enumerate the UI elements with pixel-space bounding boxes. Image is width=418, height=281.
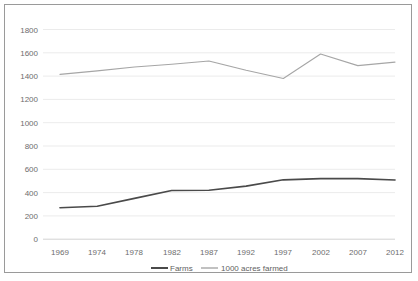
x-tick-1978: 1978 bbox=[125, 248, 143, 257]
chart-legend: Farms 1000 acres farmed bbox=[151, 264, 288, 273]
legend-label-acres: 1000 acres farmed bbox=[221, 264, 288, 273]
y-tick-1600: 1600 bbox=[20, 49, 38, 58]
x-tick-2002: 2002 bbox=[312, 248, 330, 257]
x-tick-1982: 1982 bbox=[163, 248, 181, 257]
x-tick-1969: 1969 bbox=[51, 248, 69, 257]
y-tick-1800: 1800 bbox=[20, 26, 38, 35]
y-tick-1000: 1000 bbox=[20, 119, 38, 128]
x-tick-1987: 1987 bbox=[200, 248, 218, 257]
legend-label-farms: Farms bbox=[170, 264, 193, 273]
x-axis-labels: 1969 1974 1978 1982 1987 1992 1997 2002 … bbox=[51, 248, 404, 257]
y-tick-1400: 1400 bbox=[20, 72, 38, 81]
y-tick-800: 800 bbox=[25, 142, 39, 151]
y-tick-0: 0 bbox=[34, 235, 39, 244]
y-tick-400: 400 bbox=[25, 189, 39, 198]
x-tick-2012: 2012 bbox=[386, 248, 404, 257]
y-tick-1200: 1200 bbox=[20, 95, 38, 104]
chart-card: 1800 1600 1400 1200 1000 800 600 400 200… bbox=[4, 4, 412, 273]
y-axis-labels: 1800 1600 1400 1200 1000 800 600 400 200… bbox=[20, 26, 38, 245]
y-tick-200: 200 bbox=[25, 212, 39, 221]
x-tick-1974: 1974 bbox=[88, 248, 106, 257]
series-line-1000-acres-farmed bbox=[60, 54, 395, 78]
x-tick-2007: 2007 bbox=[349, 248, 367, 257]
chart-plot-area: 1800 1600 1400 1200 1000 800 600 400 200… bbox=[5, 5, 411, 272]
line-chart-svg: 1800 1600 1400 1200 1000 800 600 400 200… bbox=[5, 5, 413, 274]
x-tick-1992: 1992 bbox=[237, 248, 255, 257]
x-tick-1997: 1997 bbox=[274, 248, 292, 257]
y-tick-600: 600 bbox=[25, 165, 39, 174]
series-line-farms bbox=[60, 179, 395, 208]
